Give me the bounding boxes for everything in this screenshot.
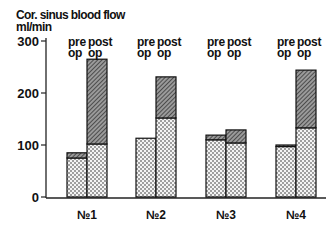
group-label: №3 <box>216 208 236 222</box>
dotted-segment <box>87 144 107 197</box>
post-op-bar <box>87 59 107 197</box>
group-label: №2 <box>146 208 166 222</box>
pre-op-bar <box>206 135 226 197</box>
pre-op-bar <box>67 153 87 197</box>
hatched-segment <box>276 145 296 147</box>
dotted-segment <box>296 128 316 197</box>
dotted-segment <box>136 138 156 197</box>
dotted-segment <box>67 158 87 197</box>
hatched-segment <box>87 59 107 144</box>
pre-op-bar <box>136 138 156 197</box>
dotted-segment <box>226 143 246 197</box>
post-op-bar <box>156 77 176 197</box>
hatched-segment <box>296 70 316 128</box>
bar-label: op <box>277 46 291 60</box>
bars <box>67 59 316 197</box>
y-tick-label: 100 <box>17 138 39 153</box>
dotted-segment <box>276 147 296 197</box>
group-label: №4 <box>286 208 306 222</box>
hatched-segment <box>226 130 246 143</box>
post-op-bar <box>296 70 316 197</box>
hatched-segment <box>67 153 87 158</box>
dotted-segment <box>206 140 226 197</box>
y-tick-label: 300 <box>17 34 39 49</box>
post-op-bar <box>226 130 246 197</box>
bar-label: op <box>137 46 151 60</box>
y-tick-label: 200 <box>17 86 39 101</box>
dotted-segment <box>156 118 176 197</box>
y-tick-label: 0 <box>32 190 39 205</box>
bar-chart: 0100200300 №1preoppostop№2preoppostop№3p… <box>0 0 333 232</box>
bar-label: op <box>88 46 102 60</box>
bar-label: op <box>297 46 311 60</box>
y-ticks: 0100200300 <box>17 34 46 205</box>
bar-label: op <box>157 46 171 60</box>
bar-label: op <box>68 46 82 60</box>
pre-op-bar <box>276 145 296 197</box>
hatched-segment <box>206 135 226 140</box>
bar-label: op <box>207 46 221 60</box>
group-label: №1 <box>77 208 97 222</box>
bar-label: op <box>227 46 241 60</box>
hatched-segment <box>156 77 176 118</box>
